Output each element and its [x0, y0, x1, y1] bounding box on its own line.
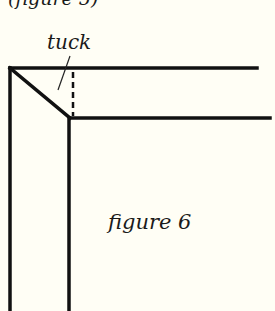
corner-fold-diagram	[0, 0, 275, 311]
tuck-label: tuck	[47, 30, 91, 54]
diagonal-fold	[10, 68, 70, 118]
tuck-pointer-line	[58, 56, 70, 90]
figure-label: figure 6	[108, 210, 191, 234]
